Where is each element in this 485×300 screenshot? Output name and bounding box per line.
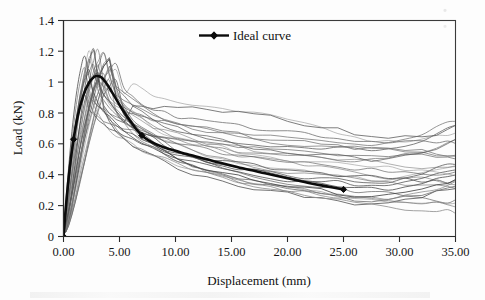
legend-label-ideal-curve: Ideal curve <box>233 28 291 43</box>
x-tick-label-0: 0.00 <box>53 245 75 259</box>
y-tick-label-2: 0.4 <box>38 168 54 182</box>
y-tick-label-7: 1.4 <box>38 14 54 28</box>
y-tick-label-0: 0 <box>48 230 54 244</box>
specimen-curves-group <box>64 49 456 233</box>
y-axis-ticks <box>58 21 64 237</box>
x-axis-ticks <box>64 237 456 243</box>
specimen-curve <box>64 53 456 233</box>
y-tick-label-3: 0.6 <box>38 137 54 151</box>
y-tick-label-1: 0.2 <box>38 199 54 213</box>
x-tick-label-6: 30.00 <box>385 245 413 259</box>
x-tick-label-4: 20.00 <box>273 245 301 259</box>
x-axis-title: Displacement (mm) <box>207 273 311 288</box>
y-tick-label-6: 1.2 <box>38 45 54 59</box>
legend-diamond-icon <box>210 32 217 39</box>
legend: Ideal curve <box>199 28 291 43</box>
ideal-curve-group <box>60 76 346 240</box>
figure-container: 0 0.2 0.4 0.6 0.8 1 1.2 1.4 Load (kN) 0.… <box>0 0 485 300</box>
y-tick-label-5: 1 <box>48 76 54 90</box>
load-displacement-chart: 0 0.2 0.4 0.6 0.8 1 1.2 1.4 Load (kN) 0.… <box>0 0 485 300</box>
x-tick-label-3: 15.00 <box>217 245 245 259</box>
x-tick-label-2: 10.00 <box>161 245 189 259</box>
x-tick-label-1: 5.00 <box>109 245 131 259</box>
y-axis-title: Load (kN) <box>10 101 25 156</box>
ideal-curve-path <box>64 76 344 237</box>
x-tick-label-5: 25.00 <box>329 245 357 259</box>
x-tick-label-7: 35.00 <box>441 245 469 259</box>
y-tick-label-4: 0.8 <box>38 107 54 121</box>
